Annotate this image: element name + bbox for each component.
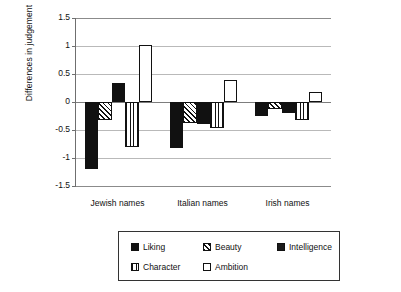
bar-intelligence-irish bbox=[282, 102, 296, 113]
bar-intelligence-italian bbox=[197, 102, 211, 124]
y-tick-mark bbox=[72, 18, 76, 19]
category-label-irish: Irish names bbox=[243, 198, 333, 208]
legend-swatch-ambition-icon bbox=[203, 263, 211, 271]
y-tick-mark bbox=[72, 130, 76, 131]
bar-character-italian bbox=[210, 102, 224, 128]
bar-beauty-irish bbox=[268, 102, 282, 109]
y-tick-mark bbox=[72, 102, 76, 103]
legend-swatch-intelligence-icon bbox=[277, 243, 285, 251]
legend-label-beauty: Beauty bbox=[215, 242, 241, 252]
category-label-italian: Italian names bbox=[158, 198, 248, 208]
y-tick-label: -0.5 bbox=[42, 124, 70, 134]
plot-area: 1.510.50-0.5-1-1.5 bbox=[75, 18, 330, 186]
y-tick-label: 0 bbox=[42, 96, 70, 106]
y-tick-label: 1 bbox=[42, 40, 70, 50]
legend-item-character[interactable]: Character bbox=[131, 258, 203, 276]
bar-chart: Differences in judgement 1.510.50-0.5-1-… bbox=[0, 0, 401, 292]
bar-liking-irish bbox=[255, 102, 269, 116]
legend-swatch-liking-icon bbox=[131, 243, 139, 251]
legend: Liking Beauty Intelligence Character Amb… bbox=[118, 231, 340, 281]
legend-item-ambition[interactable]: Ambition bbox=[203, 258, 277, 276]
bar-group bbox=[170, 18, 238, 186]
bar-liking-italian bbox=[170, 102, 184, 148]
bar-ambition-irish bbox=[309, 92, 323, 102]
legend-swatch-character-icon bbox=[131, 263, 139, 271]
y-tick-label: -1 bbox=[42, 152, 70, 162]
bar-intelligence-jewish bbox=[112, 83, 126, 102]
bar-beauty-italian bbox=[183, 102, 197, 123]
bar-beauty-jewish bbox=[98, 102, 112, 120]
y-tick-label: 1.5 bbox=[42, 12, 70, 22]
category-label-jewish: Jewish names bbox=[73, 198, 163, 208]
y-tick-mark bbox=[72, 46, 76, 47]
legend-label-character: Character bbox=[143, 262, 180, 272]
y-axis-title: Differences in judgement bbox=[24, 0, 34, 128]
bar-liking-jewish bbox=[85, 102, 99, 169]
legend-item-intelligence[interactable]: Intelligence bbox=[277, 238, 332, 256]
y-tick-label: 0.5 bbox=[42, 68, 70, 78]
bar-ambition-jewish bbox=[139, 45, 153, 102]
y-tick-mark bbox=[72, 186, 76, 187]
legend-label-liking: Liking bbox=[143, 242, 165, 252]
bar-group bbox=[85, 18, 153, 186]
legend-item-beauty[interactable]: Beauty bbox=[203, 238, 277, 256]
gridline bbox=[76, 186, 331, 187]
bar-ambition-italian bbox=[224, 80, 238, 102]
y-tick-label: -1.5 bbox=[42, 180, 70, 190]
legend-label-intelligence: Intelligence bbox=[289, 242, 332, 252]
y-tick-mark bbox=[72, 158, 76, 159]
bar-character-jewish bbox=[125, 102, 139, 147]
legend-item-liking[interactable]: Liking bbox=[131, 238, 203, 256]
bar-character-irish bbox=[295, 102, 309, 120]
y-tick-mark bbox=[72, 74, 76, 75]
legend-label-ambition: Ambition bbox=[215, 262, 248, 272]
legend-row: Character Ambition bbox=[119, 258, 339, 276]
legend-row: Liking Beauty Intelligence bbox=[119, 238, 339, 256]
bar-group bbox=[255, 18, 323, 186]
legend-swatch-beauty-icon bbox=[203, 243, 211, 251]
